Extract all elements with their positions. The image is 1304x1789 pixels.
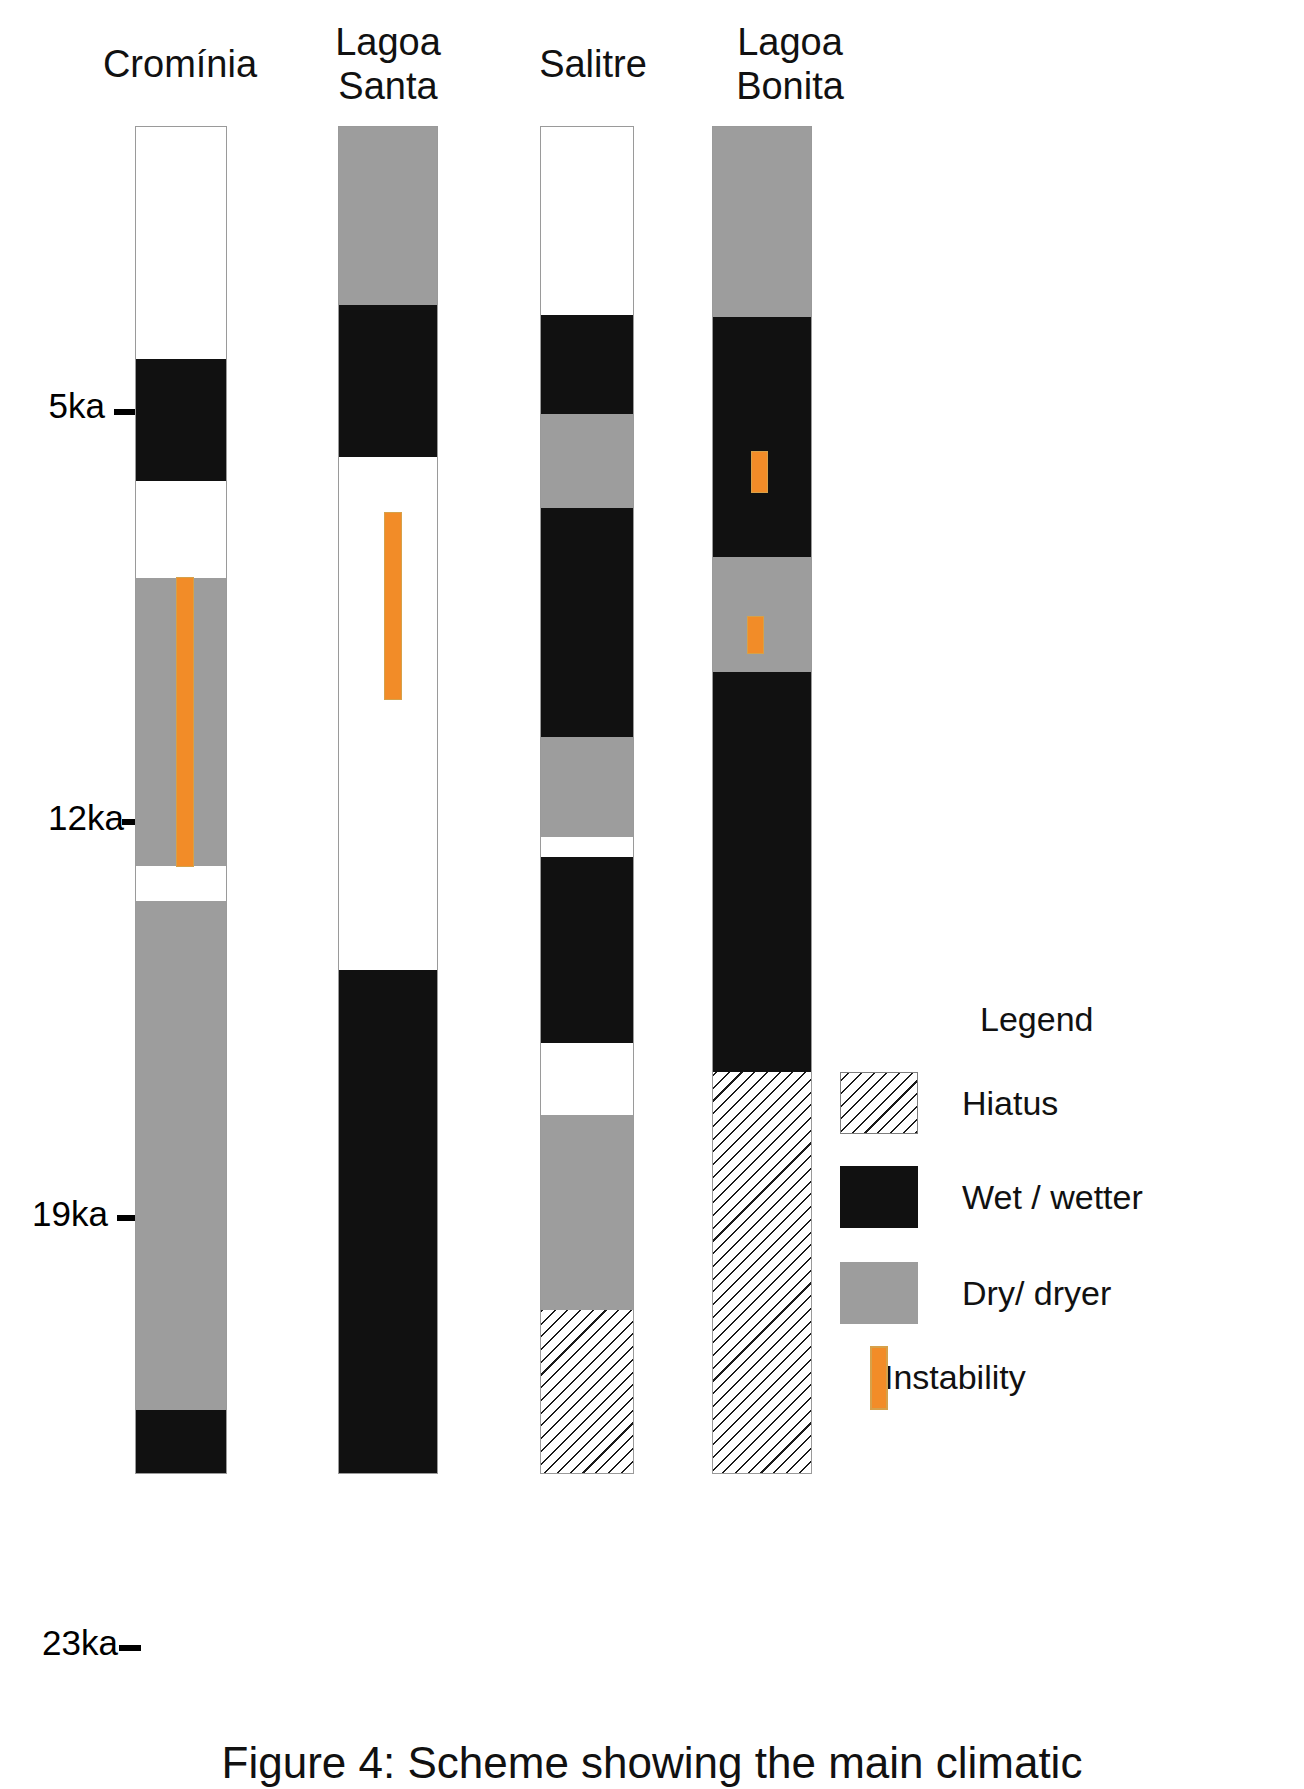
- column-lagoa-bonita[interactable]: [712, 126, 812, 1474]
- axis-label-12ka: 12ka: [0, 800, 124, 835]
- band-gray: [713, 557, 811, 672]
- legend: Legend Hiatus Wet / wetter Dry/ dryer In…: [840, 1000, 1304, 1460]
- dry-swatch-icon: [840, 1262, 918, 1324]
- band-gray: [339, 127, 437, 305]
- band-white: [136, 866, 226, 901]
- wet-swatch-icon: [840, 1166, 918, 1228]
- hiatus-swatch-icon: [840, 1072, 918, 1134]
- column-title-crominia: Cromínia: [95, 42, 265, 86]
- band-black: [713, 317, 811, 557]
- band-gray: [713, 127, 811, 317]
- instability-marker: [752, 452, 767, 492]
- legend-label-instability: Instability: [884, 1358, 1026, 1397]
- column-title-salitre: Salitre: [508, 42, 678, 86]
- column-salitre[interactable]: [540, 126, 634, 1474]
- axis-label-5ka: 5ka: [0, 388, 105, 423]
- band-white: [541, 837, 633, 857]
- legend-label-dry: Dry/ dryer: [962, 1274, 1111, 1313]
- band-black: [136, 359, 226, 481]
- instability-swatch-icon: [871, 1347, 887, 1409]
- instability-marker: [748, 617, 763, 653]
- column-title-lagoa-santa: Lagoa Santa: [303, 20, 473, 108]
- band-white: [541, 127, 633, 315]
- band-black: [339, 970, 437, 1474]
- band-hiatus: [713, 1072, 811, 1474]
- band-white: [136, 481, 226, 578]
- axis-label-19ka: 19ka: [0, 1196, 108, 1231]
- band-white: [541, 1043, 633, 1115]
- band-gray: [136, 901, 226, 1410]
- legend-title: Legend: [980, 1000, 1093, 1039]
- axis-tick-23ka: [119, 1645, 141, 1651]
- band-black: [339, 305, 437, 457]
- instability-marker: [177, 578, 193, 866]
- instability-marker: [385, 513, 401, 699]
- band-gray: [541, 737, 633, 837]
- band-gray: [541, 1115, 633, 1310]
- legend-label-wet: Wet / wetter: [962, 1178, 1143, 1217]
- band-white: [136, 127, 226, 359]
- figure-caption: Figure 4: Scheme showing the main climat…: [0, 1737, 1304, 1789]
- band-black: [713, 672, 811, 1072]
- column-title-lagoa-bonita: Lagoa Bonita: [690, 20, 890, 108]
- column-lagoa-santa[interactable]: [338, 126, 438, 1474]
- axis-label-23ka: 23ka: [0, 1625, 118, 1660]
- column-crominia[interactable]: [135, 126, 227, 1474]
- legend-item-wet[interactable]: Wet / wetter: [840, 1166, 1143, 1228]
- legend-label-hiatus: Hiatus: [962, 1084, 1058, 1123]
- band-black: [541, 857, 633, 1043]
- band-hiatus: [541, 1310, 633, 1474]
- band-gray: [541, 414, 633, 508]
- band-black: [541, 508, 633, 737]
- band-black: [136, 1410, 226, 1474]
- legend-item-hiatus[interactable]: Hiatus: [840, 1072, 1058, 1134]
- legend-item-instability[interactable]: Instability: [840, 1358, 1026, 1397]
- band-black: [541, 315, 633, 414]
- legend-item-dry[interactable]: Dry/ dryer: [840, 1262, 1111, 1324]
